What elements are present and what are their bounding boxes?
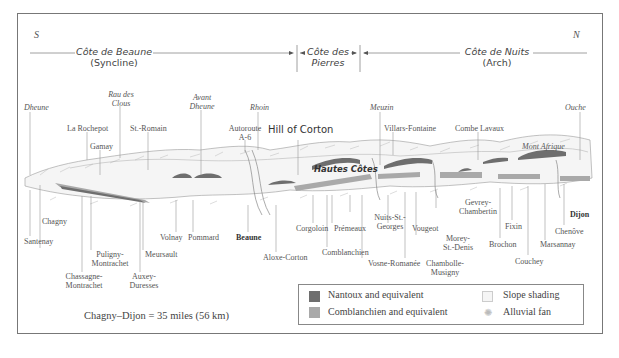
region-sub: Pierres: [307, 57, 349, 68]
village-comblanchien: Comblanchien: [322, 248, 369, 257]
label-gamay: Gamay: [90, 142, 113, 151]
label-line: Montrachet: [92, 259, 129, 268]
river-meuzin: Meuzin: [370, 103, 394, 112]
legend-label: Alluvial fan: [503, 306, 551, 317]
region-sub: (Syncline): [76, 57, 152, 68]
river-avant-dheune: Avant Dheune: [190, 93, 215, 111]
village-pommard: Pommard: [188, 233, 219, 242]
river-rhoin: Rhoin: [250, 103, 269, 112]
label-mont-afrique: Mont Afrique: [522, 142, 565, 151]
region-name: Côte des: [307, 46, 349, 57]
scale-note: Chagny–Dijon = 35 miles (56 km): [84, 310, 229, 321]
village-auxey-duresses: Auxey- Duresses: [130, 272, 159, 290]
label-line: Georges: [374, 222, 405, 231]
region-cote-de-nuits: Côte de Nuits (Arch): [497, 46, 561, 68]
label-line: A-6: [229, 133, 261, 142]
river-rau-des-clous: Rau des Clous: [108, 90, 134, 108]
legend-label: Nantoux and equivalent: [328, 289, 424, 300]
label-line: St.-Denis: [443, 243, 473, 252]
village-puligny-montrachet: Puligny- Montrachet: [92, 250, 129, 268]
village-chambolle-musigny: Chambolle- Musigny: [426, 259, 464, 277]
label-line: Chambertin: [459, 207, 497, 216]
label-line: Chambolle-: [426, 259, 464, 268]
label-line: Musigny: [426, 268, 464, 277]
village-chenove: Chenôve: [555, 227, 583, 236]
village-dijon: Dijon: [570, 210, 589, 219]
village-chassagne-montrachet: Chassagne- Montrachet: [66, 272, 103, 290]
label-line: Duresses: [130, 281, 159, 290]
region-cote-des-pierres: Côte des Pierres: [328, 46, 370, 68]
region-name: Côte de Beaune: [76, 46, 152, 57]
label-hautes-cotes: Hautes Côtes: [314, 164, 378, 174]
label-villars-fontaine: Villars-Fontaine: [384, 124, 436, 133]
village-santenay: Santenay: [24, 237, 53, 246]
label-la-rochepot: La Rochepot: [67, 124, 108, 133]
label-line: Chassagne-: [66, 272, 103, 281]
village-nuits-st-georges: Nuits-St.- Georges: [374, 213, 405, 231]
village-fixin: Fixin: [505, 222, 522, 231]
village-corgoloin: Corgoloin: [296, 224, 328, 233]
label-combe-lavaux: Combe Lavaux: [455, 124, 504, 133]
nantoux-swatch: [309, 291, 320, 302]
label-st-romain: St.-Romain: [130, 124, 167, 133]
label-line: Avant: [190, 93, 215, 102]
village-volnay: Volnay: [160, 233, 183, 242]
label-line: Dheune: [190, 102, 215, 111]
alluvial-fan-icon: ✺: [482, 307, 493, 318]
label-line: Puligny-: [92, 250, 129, 259]
label-line: Nuits-St.-: [374, 213, 405, 222]
village-brochon: Brochon: [489, 240, 517, 249]
village-vougeot: Vougeot: [412, 224, 439, 233]
village-couchey: Couchey: [515, 257, 543, 266]
legend-label: Comblanchien and equivalent: [328, 306, 447, 317]
village-premeaux: Prémeaux: [334, 224, 366, 233]
region-sub: (Arch): [465, 57, 529, 68]
label-autoroute: Autoroute A-6: [229, 124, 261, 142]
river-dheune: Dheune: [24, 103, 49, 112]
label-line: Montrachet: [66, 281, 103, 290]
village-vosne-romanee: Vosne-Romanée: [368, 259, 420, 268]
village-gevrey-chambertin: Gevrey- Chambertin: [459, 198, 497, 216]
village-chagny: Chagny: [42, 217, 67, 226]
label-line: Clous: [108, 99, 134, 108]
legend-label: Slope shading: [503, 289, 559, 300]
slope-shading-swatch: [482, 291, 493, 302]
legend: Nantoux and equivalent Comblanchien and …: [298, 284, 584, 325]
region-name: Côte de Nuits: [465, 46, 529, 57]
label-line: Morey-: [443, 234, 473, 243]
region-cote-de-beaune: Côte de Beaune (Syncline): [114, 46, 190, 68]
label-line: Gevrey-: [459, 198, 497, 207]
label-line: Rau des: [108, 90, 134, 99]
label-hill-of-corton: Hill of Corton: [268, 124, 333, 135]
village-marsannay: Marsannay: [540, 240, 576, 249]
village-morey-st-denis: Morey- St.-Denis: [443, 234, 473, 252]
label-line: Auxey-: [130, 272, 159, 281]
river-ouche: Ouche: [565, 103, 586, 112]
village-aloxe-corton: Aloxe-Corton: [263, 253, 307, 262]
village-meursault: Meursault: [145, 250, 177, 259]
village-beaune: Beaune: [236, 233, 261, 242]
comblanchien-swatch: [309, 307, 320, 318]
label-line: Autoroute: [229, 124, 261, 133]
